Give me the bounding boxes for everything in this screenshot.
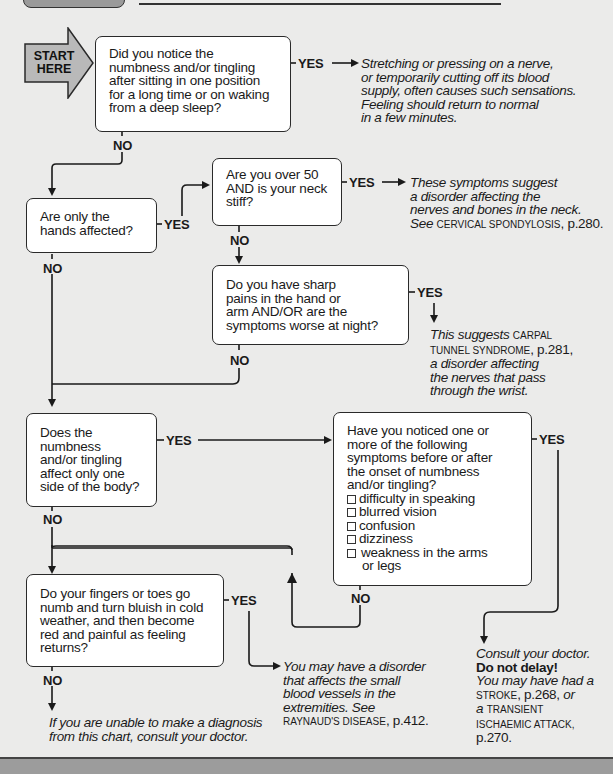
checkbox-icon[interactable]	[347, 535, 356, 544]
reference-link-cervical-spondylosis[interactable]: CERVICAL SPONDYLOSIS	[437, 219, 561, 230]
outcome-nerve-pressure: Stretching or pressing on a nerve, or te…	[361, 57, 576, 125]
q7-no-label: NO	[43, 674, 62, 687]
question-text: weather, and then become	[40, 614, 211, 628]
outcome-text: Feeling should return to normal	[361, 98, 576, 112]
reference-link-carpal-tunnel[interactable]: CARPAL	[513, 330, 552, 341]
question-text: Did you notice the	[109, 47, 278, 61]
question-box-over-50-neck: Are you over 50 AND is your neck stiff?	[212, 158, 342, 226]
q1-no-label: NO	[113, 139, 132, 152]
outcome-text: a disorder affecting the	[410, 190, 603, 204]
reference-link-tia-cont[interactable]: ISCHAEMIC ATTACK,	[476, 719, 575, 730]
outcome-stroke-warning: Consult your doctor. Do not delay! You m…	[476, 647, 594, 745]
q5-no-label: NO	[43, 513, 62, 526]
reference-link-carpal-tunnel-cont[interactable]: TUNNEL SYNDROME	[430, 345, 530, 356]
outcome-text: If you are unable to make a diagnosis	[49, 716, 262, 730]
question-text: Do your fingers or toes go	[40, 587, 211, 601]
outcome-carpal-tunnel: This suggests CARPAL TUNNEL SYNDROME, p.…	[430, 328, 573, 398]
q6-no-label: NO	[351, 592, 370, 605]
q4-yes-label: YES	[417, 286, 442, 299]
outcome-text: See	[410, 216, 437, 231]
outcome-cervical-spondylosis: These symptoms suggest a disorder affect…	[410, 176, 603, 231]
outcome-text: This suggests	[430, 327, 513, 342]
outcome-text: a	[476, 701, 487, 716]
reference-link-stroke[interactable]: STROKE	[476, 690, 517, 701]
question-text: red and painful as feeling	[40, 628, 211, 642]
checkbox-icon[interactable]	[347, 508, 356, 517]
footer-band	[0, 757, 613, 774]
question-text: numbness	[40, 440, 144, 454]
start-label-line2: HERE	[32, 63, 76, 76]
checkbox-icon[interactable]	[347, 495, 356, 504]
urgent-warning: Do not delay!	[476, 661, 594, 675]
question-box-sleep-position: Did you notice the numbness and/or tingl…	[95, 36, 291, 132]
question-text: returns?	[40, 641, 211, 655]
checkbox-icon[interactable]	[347, 522, 356, 531]
question-text: stiff?	[226, 195, 329, 209]
outcome-text: nerves and bones in the neck.	[410, 203, 603, 217]
outcome-text: extremities. See	[283, 701, 429, 715]
q7-yes-label: YES	[231, 594, 256, 607]
question-text: and/or tingling	[40, 453, 144, 467]
page-reference: p.270.	[476, 730, 512, 745]
outcome-text: the nerves that pass	[430, 371, 573, 385]
outcome-text: supply, often causes such sensations.	[361, 84, 576, 98]
question-text: Does the	[40, 426, 144, 440]
question-text: Are you over 50	[226, 168, 329, 182]
start-label: START HERE	[32, 50, 76, 76]
outcome-text: a disorder affecting	[430, 357, 573, 371]
outcome-text: through the wrist.	[430, 384, 573, 398]
question-text: affect only one	[40, 467, 144, 481]
question-text: pains in the hand or	[226, 292, 396, 306]
checkbox-icon[interactable]	[347, 549, 356, 558]
outcome-text: from this chart, consult your doctor.	[49, 730, 262, 744]
question-text: symptoms before or after	[347, 451, 519, 465]
question-text: Do you have sharp	[226, 278, 396, 292]
question-text: numb and turn bluish in cold	[40, 601, 211, 615]
q2-no-label: NO	[43, 262, 62, 275]
q2-yes-label: YES	[164, 218, 189, 231]
question-text: from a deep sleep?	[109, 101, 278, 115]
question-box-one-side: Does the numbness and/or tingling affect…	[26, 413, 157, 507]
page-reference: , p.281,	[530, 342, 573, 357]
outcome-consult-doctor-fallback: If you are unable to make a diagnosis fr…	[49, 716, 262, 743]
outcome-text: Consult your doctor.	[476, 647, 594, 661]
outcome-text: You may have a disorder	[283, 660, 429, 674]
q3-no-label: NO	[230, 234, 249, 247]
question-text: Are only the	[40, 210, 144, 224]
page-reference: , p.268,	[517, 687, 563, 702]
q3-yes-label: YES	[349, 176, 374, 189]
question-text: side of the body?	[40, 480, 144, 494]
question-text: after sitting in one position	[109, 74, 278, 88]
outcome-text: or	[563, 687, 574, 702]
question-box-raynauds: Do your fingers or toes go numb and turn…	[26, 574, 224, 667]
outcome-text: or temporarily cutting off its blood	[361, 71, 576, 85]
outcome-text: blood vessels in the	[283, 687, 429, 701]
q4-no-label: NO	[230, 354, 249, 367]
question-box-sharp-pains: Do you have sharp pains in the hand or a…	[212, 265, 409, 345]
outcome-text: in a few minutes.	[361, 111, 576, 125]
question-text: and/or tingling?	[347, 478, 519, 492]
q1-yes-label: YES	[298, 57, 323, 70]
outcome-text: These symptoms suggest	[410, 176, 603, 190]
q6-yes-label: YES	[539, 433, 564, 446]
question-box-stroke-symptoms: Have you noticed one or more of the foll…	[333, 412, 532, 586]
outcome-text: You may have had a	[476, 674, 594, 688]
question-text: hands affected?	[40, 224, 144, 238]
question-text: symptoms worse at night?	[226, 319, 396, 333]
outcome-raynauds-disease: You may have a disorder that affects the…	[283, 660, 429, 729]
question-text: more of the following	[347, 438, 519, 452]
q5-yes-label: YES	[166, 434, 191, 447]
reference-link-tia[interactable]: TRANSIENT	[487, 704, 544, 715]
question-text: the onset of numbness	[347, 465, 519, 479]
outcome-text: that affects the small	[283, 674, 429, 688]
question-text: AND is your neck	[226, 182, 329, 196]
page-reference: , p.280.	[561, 216, 604, 231]
question-box-hands-only: Are only the hands affected?	[26, 198, 157, 253]
question-text: for a long time or on waking	[109, 88, 278, 102]
outcome-text: Stretching or pressing on a nerve,	[361, 57, 576, 71]
page-reference: , p.412.	[386, 713, 429, 728]
question-text: Have you noticed one or	[347, 424, 519, 438]
question-text: arm AND/OR are the	[226, 305, 396, 319]
checklist-item-cont: or legs	[347, 559, 519, 573]
reference-link-raynauds[interactable]: RAYNAUD'S DISEASE	[283, 716, 386, 727]
